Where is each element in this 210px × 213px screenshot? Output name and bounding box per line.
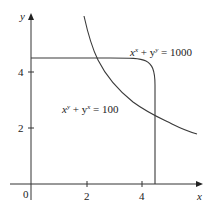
y-tick-label-4: 4	[18, 66, 24, 78]
x-axis	[10, 181, 203, 187]
y-axis-arrow-icon	[28, 13, 34, 20]
curve-xy-yx-100	[84, 16, 197, 134]
origin-label: 0	[23, 188, 29, 200]
y-tick-label-2: 2	[18, 122, 24, 134]
x-tick-label-2: 2	[84, 190, 90, 202]
y-axis-label: y	[19, 10, 25, 22]
x-tick-label-4: 4	[139, 190, 145, 202]
x-axis-arrow-icon	[196, 181, 203, 187]
chart: 0 2 4 4 2 x y xx + yy = 1000 xy + yx = 1…	[0, 0, 210, 213]
x-axis-label: x	[196, 190, 202, 202]
label-curve-1000: xx + yy = 1000	[129, 46, 193, 58]
curve-xx-yy-1000	[31, 58, 155, 184]
y-axis	[28, 13, 34, 200]
label-curve-100: xy + yx = 100	[61, 103, 119, 115]
